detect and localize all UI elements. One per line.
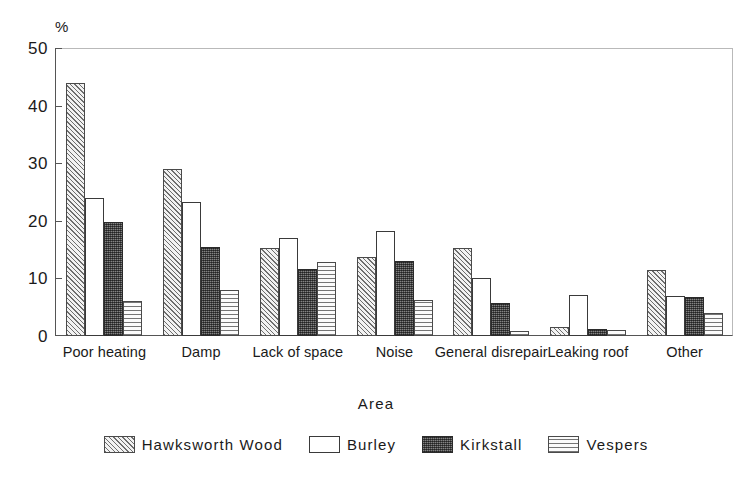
bar: [588, 329, 607, 336]
bar: [201, 247, 220, 336]
y-tick-mark: [55, 106, 62, 107]
y-tick-mark: [55, 48, 62, 49]
bar: [647, 270, 666, 336]
bar-group: [163, 48, 239, 336]
y-axis-unit-label: %: [55, 18, 69, 35]
chart-legend: Hawksworth WoodBurleyKirkstallVespers: [0, 436, 752, 453]
bar-group: [66, 48, 142, 336]
bar: [85, 198, 104, 336]
bar-chart: % 01020304050 Poor heatingDampLack of sp…: [0, 0, 752, 483]
bar: [123, 301, 142, 336]
bar: [298, 269, 317, 336]
bar: [279, 238, 298, 336]
bar-group: [260, 48, 336, 336]
legend-swatch-icon: [422, 436, 453, 453]
bar: [163, 169, 182, 336]
bar: [376, 231, 395, 336]
legend-item[interactable]: Kirkstall: [422, 436, 522, 453]
legend-item[interactable]: Burley: [309, 436, 396, 453]
y-tick-label: 30: [12, 155, 48, 172]
bar: [472, 278, 491, 336]
bar: [395, 261, 414, 336]
legend-swatch-icon: [104, 436, 135, 453]
bar-group: [550, 48, 626, 336]
bar: [704, 313, 723, 336]
legend-label: Kirkstall: [460, 436, 522, 453]
bar: [357, 257, 376, 336]
y-tick-mark: [55, 278, 62, 279]
bar-group: [357, 48, 433, 336]
bar: [607, 330, 626, 336]
legend-item[interactable]: Hawksworth Wood: [104, 436, 283, 453]
bar: [491, 303, 510, 336]
bar: [260, 248, 279, 336]
x-axis-title: Area: [0, 395, 752, 412]
bar: [317, 262, 336, 336]
x-axis-label: Other: [626, 344, 743, 361]
bar: [66, 83, 85, 336]
bar: [685, 297, 704, 336]
bar: [182, 202, 201, 336]
bar: [220, 290, 239, 336]
bar: [569, 295, 588, 336]
bar: [104, 222, 123, 336]
y-tick-label: 40: [12, 97, 48, 114]
y-tick-label: 50: [12, 40, 48, 57]
legend-item[interactable]: Vespers: [548, 436, 648, 453]
y-tick-mark: [55, 221, 62, 222]
bar-groups: [56, 48, 733, 336]
legend-swatch-icon: [309, 436, 340, 453]
bar-group: [453, 48, 529, 336]
bar: [510, 331, 529, 336]
bar-group: [647, 48, 723, 336]
legend-label: Vespers: [586, 436, 648, 453]
bar: [550, 327, 569, 336]
bar: [414, 300, 433, 336]
legend-label: Hawksworth Wood: [142, 436, 283, 453]
bar: [666, 296, 685, 336]
bar: [453, 248, 472, 336]
y-tick-label: 20: [12, 212, 48, 229]
y-tick-mark: [55, 163, 62, 164]
y-tick-label: 10: [12, 270, 48, 287]
x-axis-labels: Poor heatingDampLack of spaceNoiseGenera…: [56, 344, 733, 390]
legend-swatch-icon: [548, 436, 579, 453]
y-tick-label: 0: [12, 328, 48, 345]
legend-label: Burley: [347, 436, 396, 453]
